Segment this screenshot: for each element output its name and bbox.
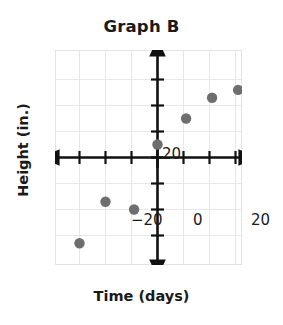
scatter-plot-svg: [55, 50, 242, 265]
x-tick-label-neg20: −20: [131, 211, 163, 229]
data-point: [181, 113, 191, 123]
data-point: [207, 93, 217, 103]
chart-figure: Graph B Height (in.): [0, 0, 283, 325]
plot-area: −20 0 20 20: [55, 50, 242, 265]
x-tick-label-zero: 0: [193, 211, 203, 229]
y-tick-label-20: 20: [162, 145, 181, 163]
data-point: [74, 238, 84, 248]
x-tick-label-pos20: 20: [251, 211, 270, 229]
x-axis-label: Time (days): [0, 288, 283, 304]
data-point: [100, 197, 110, 207]
y-axis-label: Height (in.): [15, 75, 31, 225]
chart-title: Graph B: [0, 17, 283, 36]
